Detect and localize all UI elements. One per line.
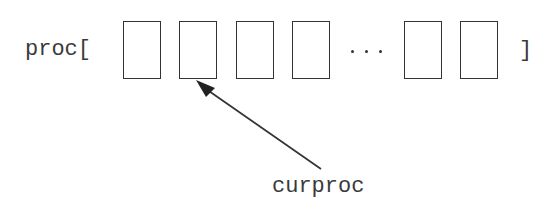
proc-array-diagram: proc[ ] curproc: [0, 0, 554, 212]
arrow-shaft: [206, 89, 321, 169]
pointer-label: curproc: [272, 176, 364, 198]
arrowhead-icon: [196, 80, 215, 97]
